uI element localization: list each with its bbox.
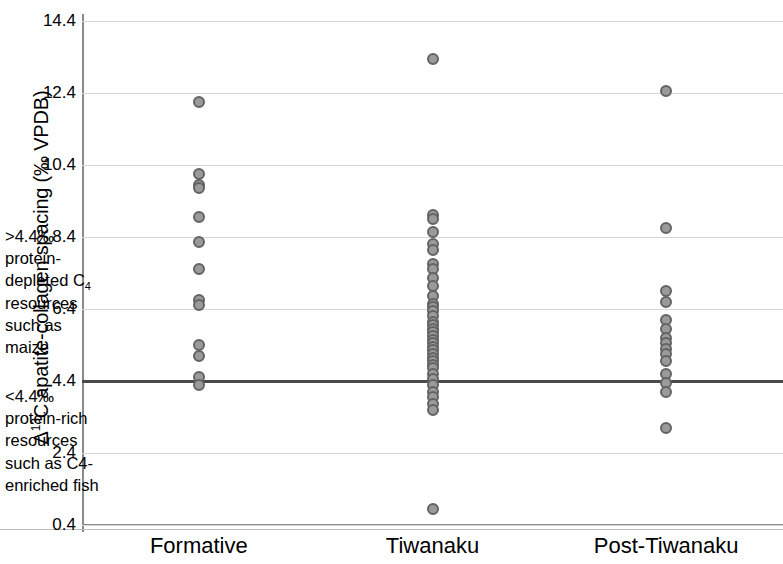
y-tick-label: 14.4 [16,11,76,31]
annotation-below-threshold: <4.4‰protein-richresourcessuch as C4-enr… [5,385,99,496]
y-tick-label: 12.4 [16,83,76,103]
annotation-line: protein- [5,247,91,269]
annotation-line: maize [5,336,91,358]
scatter-chart-figure: Δ13C apatite-collagen spacing (‰ VPDB) 0… [0,0,783,564]
annotation-line: depleted C4 [5,269,91,291]
gridline [82,21,783,22]
x-tick-label-tiwanaku: Tiwanaku [386,533,479,559]
annotation-line: resources [5,292,91,314]
y-tick-label: 10.4 [16,155,76,175]
gridline [82,93,783,94]
data-point [427,53,439,65]
data-point [193,379,205,391]
data-point [193,263,205,275]
annotation-line: >4.4‰ [5,225,91,247]
data-point [660,85,672,97]
x-tick-label-formative: Formative [150,533,248,559]
annotation-line: <4.4‰ [5,385,99,407]
annotation-above-threshold: >4.4‰protein-depleted C4resourcessuch as… [5,225,91,358]
data-point [193,236,205,248]
figure-bottom-rule [0,529,783,530]
x-tick-label-post-tiwanaku: Post-Tiwanaku [594,533,739,559]
data-point [660,422,672,434]
annotation-line: enriched fish [5,474,99,496]
data-point [193,211,205,223]
data-point [427,213,439,225]
data-point [427,226,439,238]
plot-area: 0.42.44.46.48.410.412.414.4 [82,21,783,525]
data-point [193,350,205,362]
data-point [427,503,439,515]
annotation-line: such as [5,314,91,336]
data-point [193,182,205,194]
data-point [660,222,672,234]
data-point [660,296,672,308]
gridline [82,165,783,166]
data-point [193,96,205,108]
gridline [82,525,783,526]
data-point [660,355,672,367]
data-point [660,386,672,398]
data-point [427,404,439,416]
annotation-line: protein-rich [5,407,99,429]
data-point [427,244,439,256]
annotation-line: such as C4- [5,452,99,474]
gridline [82,453,783,454]
annotation-subscript: 4 [85,281,91,293]
y-tick-label: 0.4 [16,515,76,535]
annotation-line: resources [5,429,99,451]
